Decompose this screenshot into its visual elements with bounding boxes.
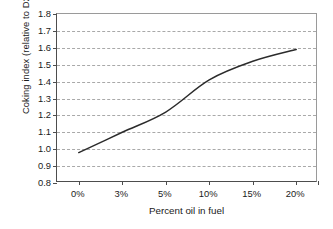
x-axis-tick-label: 3% [114,188,128,199]
plot-area [56,13,317,182]
x-axis-tick-label: 10% [199,188,218,199]
x-axis-tick-label: 15% [242,188,261,199]
y-axis-tick-label: 1.0 [18,144,51,153]
y-axis-tick-label: 1.6 [18,42,51,51]
x-axis-tick-labels: 0%3%5%10%15%20% [56,188,317,202]
x-axis-title: Percent oil in fuel [56,205,317,216]
x-axis-tick-label: 20% [286,188,305,199]
x-axis-tick-label: 5% [158,188,172,199]
x-axis-tick-label: 0% [71,188,85,199]
y-axis-tick-mark [53,183,57,184]
y-axis-tick-label: 1.5 [18,59,51,68]
y-axis-tick-label: 1.2 [18,110,51,119]
y-axis-tick-label: 0.8 [18,178,51,187]
y-axis-tick-label: 0.9 [18,161,51,170]
y-axis-tick-labels: 1.81.71.61.51.41.31.21.11.00.90.8 [18,13,51,182]
y-axis-tick-label: 1.8 [18,9,51,18]
y-axis-tick-label: 1.4 [18,76,51,85]
y-axis-tick-label: 1.3 [18,93,51,102]
series-line-coking-index [57,14,318,183]
y-axis-tick-label: 1.1 [18,127,51,136]
chart-figure: Coking index (relative to D2) 1.81.71.61… [0,0,333,229]
y-axis-tick-label: 1.7 [18,25,51,34]
